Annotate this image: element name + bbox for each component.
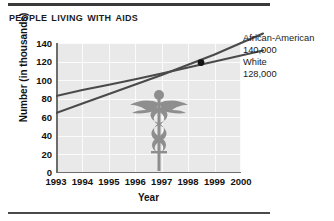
y-tick-label: 20 <box>26 150 52 160</box>
legend-series-name: White <box>243 57 333 69</box>
gridline-vertical <box>135 43 136 173</box>
gridline-vertical <box>240 43 241 173</box>
gridline-horizontal <box>56 154 241 155</box>
y-tick-label: 140 <box>26 39 52 49</box>
plot-area <box>56 43 241 173</box>
y-tick-label: 100 <box>26 76 52 86</box>
footer-rule <box>8 212 270 214</box>
gridline-vertical <box>162 43 163 173</box>
gridline-horizontal <box>56 136 241 137</box>
x-tick-label: 1994 <box>67 176 97 187</box>
x-axis-tick-labels: 1993 1994 1995 1996 1997 1998 1999 2000 <box>56 176 256 188</box>
gridline-horizontal <box>56 99 241 100</box>
legend: African-American 140,000 White 128,000 <box>243 33 333 81</box>
gridline-vertical <box>188 43 189 173</box>
legend-item-white: White 128,000 <box>243 57 333 80</box>
x-axis-title: Year <box>56 192 241 203</box>
legend-series-value: 128,000 <box>243 69 333 81</box>
y-tick-label: 80 <box>26 94 52 104</box>
y-tick-label: 120 <box>26 57 52 67</box>
x-axis-line <box>56 172 241 174</box>
y-tick-label: 60 <box>26 113 52 123</box>
gridline-vertical <box>215 43 216 173</box>
gridline-horizontal <box>56 80 241 81</box>
gridline-vertical <box>82 43 83 173</box>
x-tick-label: 2000 <box>226 176 256 187</box>
gridline-horizontal <box>56 117 241 118</box>
gridline-horizontal <box>56 43 241 44</box>
gridline-vertical <box>109 43 110 173</box>
x-tick-label: 1998 <box>173 176 203 187</box>
y-tick-label: 40 <box>26 131 52 141</box>
y-axis-line <box>56 43 58 173</box>
y-axis-tick-labels: 140 120 100 80 60 40 20 0 <box>26 0 52 221</box>
legend-series-name: African-American <box>243 33 333 45</box>
legend-item-african-american: African-American 140,000 <box>243 33 333 56</box>
legend-series-value: 140,000 <box>243 45 333 57</box>
gridlines <box>56 43 241 173</box>
gridline-horizontal <box>56 62 241 63</box>
